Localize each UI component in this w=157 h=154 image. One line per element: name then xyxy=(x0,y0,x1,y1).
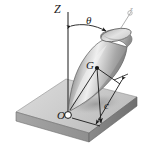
figure-canvas xyxy=(0,0,157,154)
origin-marker xyxy=(65,112,72,119)
label-origin: O xyxy=(57,110,65,121)
label-z-axis: Z xyxy=(54,3,61,15)
label-theta-angle: θ xyxy=(86,15,91,26)
mechanics-figure: Z θ G O c z xyxy=(0,0,157,154)
label-mass-center: G xyxy=(86,60,94,71)
label-body-axis: z xyxy=(130,6,133,13)
origin-circle xyxy=(65,112,72,119)
label-distance-c: c xyxy=(104,100,109,111)
